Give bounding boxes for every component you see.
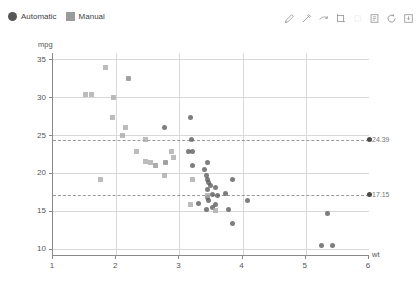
plot-area[interactable] xyxy=(52,53,369,256)
x-axis-tick-mark xyxy=(52,256,53,259)
y-axis-tick-mark xyxy=(49,249,52,250)
data-point-automatic[interactable] xyxy=(223,191,228,196)
data-point-manual[interactable] xyxy=(103,65,108,70)
data-point-manual[interactable] xyxy=(134,149,139,154)
y-axis-tick-label: 25 xyxy=(24,131,46,140)
y-axis-tick-label: 10 xyxy=(24,244,46,253)
data-point-automatic[interactable] xyxy=(230,177,235,182)
data-point-automatic[interactable] xyxy=(190,163,195,168)
data-point-automatic[interactable] xyxy=(245,198,250,203)
data-point-manual[interactable] xyxy=(89,92,94,97)
x-axis-tick-label: 6 xyxy=(358,261,378,270)
data-point-automatic[interactable] xyxy=(230,221,235,226)
chart-toolbar xyxy=(283,12,414,24)
gridline-vertical xyxy=(243,53,244,255)
data-point-automatic[interactable] xyxy=(319,243,324,248)
y-axis-tick-mark xyxy=(49,173,52,174)
reference-line-label: 24.39 xyxy=(372,136,390,143)
data-point-automatic[interactable] xyxy=(202,167,207,172)
y-axis-tick-label: 30 xyxy=(24,93,46,102)
data-point-automatic[interactable] xyxy=(189,137,194,142)
save-icon[interactable] xyxy=(402,12,414,24)
data-point-automatic[interactable] xyxy=(162,125,167,130)
gridline-horizontal xyxy=(53,173,369,174)
x-axis-title: wt xyxy=(372,250,380,259)
edit-pencil-icon[interactable] xyxy=(283,12,295,24)
y-axis-tick-label: 35 xyxy=(24,55,46,64)
y-axis-tick-mark xyxy=(49,135,52,136)
scatter-plot[interactable]: mpg wt 10152025303512345624.3917.15 xyxy=(0,34,420,289)
x-axis-tick-mark xyxy=(178,256,179,259)
gridline-horizontal xyxy=(53,211,369,212)
refresh-icon[interactable] xyxy=(385,12,397,24)
gridline-vertical xyxy=(306,53,307,255)
legend-label-automatic: Automatic xyxy=(21,12,57,21)
data-point-manual[interactable] xyxy=(143,137,148,142)
data-point-manual[interactable] xyxy=(162,173,167,178)
data-point-manual[interactable] xyxy=(120,133,125,138)
gridline-vertical xyxy=(179,53,180,255)
data-point-manual[interactable] xyxy=(143,159,148,164)
data-point-manual[interactable] xyxy=(188,202,193,207)
legend-marker-square-icon xyxy=(66,12,75,21)
data-point-automatic[interactable] xyxy=(205,160,210,165)
reference-line-handle[interactable] xyxy=(367,192,372,197)
eraser-icon[interactable] xyxy=(317,12,329,24)
data-point-automatic[interactable] xyxy=(204,173,209,178)
pen-icon[interactable] xyxy=(300,12,312,24)
chart-header-bar: Automatic Manual xyxy=(0,0,420,34)
x-axis-tick-label: 1 xyxy=(42,261,62,270)
data-point-manual[interactable] xyxy=(163,160,168,165)
y-axis-tick-mark xyxy=(49,211,52,212)
data-point-manual[interactable] xyxy=(110,115,115,120)
x-axis-tick-mark xyxy=(368,256,369,259)
gridline-vertical xyxy=(116,53,117,255)
notes-icon[interactable] xyxy=(368,12,380,24)
data-point-automatic[interactable] xyxy=(213,185,218,190)
data-point-manual[interactable] xyxy=(123,125,128,130)
data-point-manual[interactable] xyxy=(153,163,158,168)
x-axis-tick-mark xyxy=(305,256,306,259)
data-point-automatic[interactable] xyxy=(325,211,330,216)
reference-line[interactable] xyxy=(53,140,369,141)
data-point-manual[interactable] xyxy=(213,208,218,213)
legend-label-manual: Manual xyxy=(79,12,105,21)
legend-item-automatic[interactable]: Automatic xyxy=(8,12,57,21)
legend-item-manual[interactable]: Manual xyxy=(66,12,105,21)
data-point-manual[interactable] xyxy=(111,95,116,100)
data-point-manual[interactable] xyxy=(171,155,176,160)
legend-marker-circle-icon xyxy=(8,12,17,21)
gridline-horizontal xyxy=(53,97,369,98)
legend: Automatic Manual xyxy=(8,12,105,21)
data-point-manual[interactable] xyxy=(126,76,131,81)
x-axis-tick-mark xyxy=(242,256,243,259)
y-axis-title: mpg xyxy=(38,40,53,49)
y-axis-tick-label: 20 xyxy=(24,168,46,177)
data-point-automatic[interactable] xyxy=(190,149,195,154)
x-axis-tick-label: 5 xyxy=(295,261,315,270)
data-point-manual[interactable] xyxy=(169,149,174,154)
select-rect-icon[interactable] xyxy=(351,12,363,24)
data-point-automatic[interactable] xyxy=(330,243,335,248)
data-point-automatic[interactable] xyxy=(215,193,220,198)
gridline-horizontal xyxy=(53,135,369,136)
data-point-manual[interactable] xyxy=(205,193,210,198)
x-axis-tick-mark xyxy=(115,256,116,259)
x-axis-tick-label: 4 xyxy=(232,261,252,270)
data-point-automatic[interactable] xyxy=(213,202,218,207)
y-axis-tick-mark xyxy=(49,59,52,60)
reference-line-handle[interactable] xyxy=(367,137,372,142)
data-point-manual[interactable] xyxy=(148,160,153,165)
data-point-automatic[interactable] xyxy=(196,201,201,206)
crop-icon[interactable] xyxy=(334,12,346,24)
x-axis-tick-label: 2 xyxy=(105,261,125,270)
y-axis-tick-label: 15 xyxy=(24,206,46,215)
data-point-manual[interactable] xyxy=(83,92,88,97)
x-axis-tick-label: 3 xyxy=(168,261,188,270)
gridline-horizontal xyxy=(53,59,369,60)
gridline-horizontal xyxy=(53,249,369,250)
data-point-manual[interactable] xyxy=(98,177,103,182)
reference-line-label: 17.15 xyxy=(372,191,390,198)
data-point-automatic[interactable] xyxy=(188,115,193,120)
data-point-manual[interactable] xyxy=(190,177,195,182)
